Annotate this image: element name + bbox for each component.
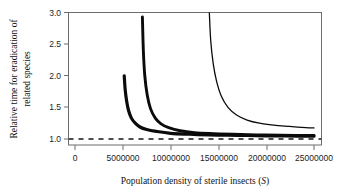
x-axis-title-plain: Population density of sterile insects (121, 176, 256, 186)
y-tick-label-3: 2.5 (49, 39, 61, 49)
x-axis-title-text: Population density of sterile insects (S… (121, 176, 270, 187)
y-tick-label-4: 3.0 (49, 8, 61, 18)
y-axis-title-line2: related species (22, 51, 32, 107)
y-axis-title-line1: Relative time for eradication of (9, 19, 19, 139)
x-tick-label-0: 0 (73, 153, 78, 163)
y-tick-label-1: 1.5 (49, 102, 61, 112)
x-tick-label-3: 15000000 (200, 153, 238, 163)
x-tick-label-4: 20000000 (248, 153, 286, 163)
chart-figure: 1.0 1.5 2.0 2.5 3.0 0 5000000 10000000 1… (0, 0, 361, 195)
y-tick-label-0: 1.0 (49, 134, 61, 144)
x-axis-tick-labels: 0 5000000 10000000 15000000 20000000 250… (73, 153, 334, 163)
chart-svg: 1.0 1.5 2.0 2.5 3.0 0 5000000 10000000 1… (0, 0, 361, 195)
x-tick-label-5: 25000000 (295, 153, 333, 163)
x-tick-label-1: 5000000 (106, 153, 139, 163)
x-axis-title: Population density of sterile insects (S… (121, 176, 270, 187)
x-tick-label-2: 10000000 (152, 153, 190, 163)
x-axis-title-paren-close: ) (266, 176, 269, 187)
chart-background (0, 0, 361, 195)
y-tick-label-2: 2.0 (49, 71, 61, 81)
